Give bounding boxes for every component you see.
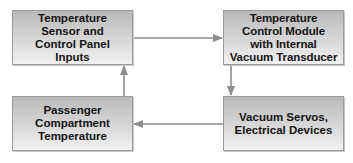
node-label: Passenger Compartment Temperature [35,104,110,143]
node-temperature-sensor-inputs: Temperature Sensor and Control Panel Inp… [12,10,133,65]
node-label: Vacuum Servos, Electrical Devices [235,111,333,137]
node-label: Temperature Control Module with Internal… [230,12,338,64]
node-temperature-control-module: Temperature Control Module with Internal… [223,10,344,65]
node-vacuum-servos-electrical-devices: Vacuum Servos, Electrical Devices [223,96,344,151]
node-label: Temperature Sensor and Control Panel Inp… [35,12,110,64]
node-passenger-compartment-temperature: Passenger Compartment Temperature [12,96,133,151]
